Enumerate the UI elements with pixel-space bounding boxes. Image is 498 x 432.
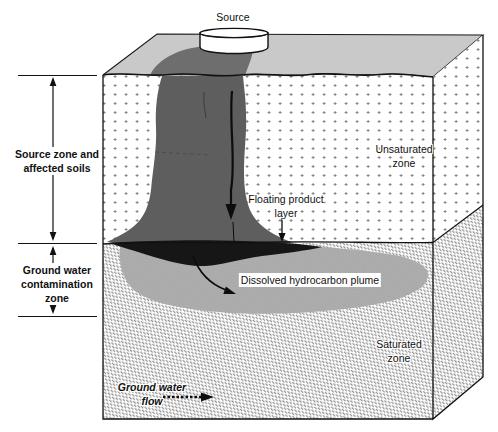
unsaturated-zone-label: Unsaturated zone	[375, 142, 432, 170]
source-label: Source	[216, 10, 249, 24]
saturated-zone-label: Saturated zone	[376, 337, 422, 365]
groundwater-flow-label: Ground water flow	[118, 380, 186, 408]
diagram-canvas: Source Source zone and affected soils Gr…	[0, 0, 498, 432]
dissolved-plume-label: Dissolved hydrocarbon plume	[239, 273, 381, 287]
floating-product-layer-label: Floating product layer	[248, 192, 323, 220]
source-tank	[200, 28, 268, 53]
groundwater-contamination-zone-label: Ground water contamination zone	[19, 263, 95, 305]
source-zone-label: Source zone and affected soils	[13, 147, 101, 175]
